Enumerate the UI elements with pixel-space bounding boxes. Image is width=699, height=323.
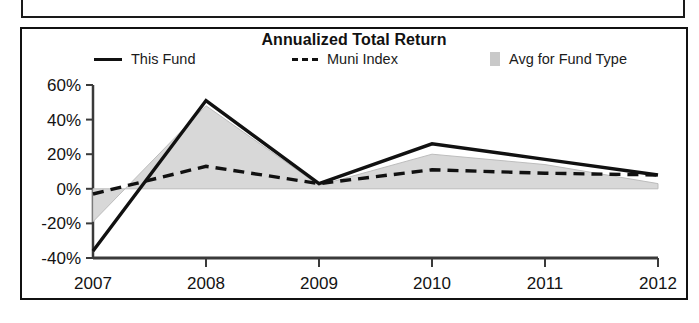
x-axis-tick-labels: 200720082009201020112012YTD [74,274,690,293]
x-axis-tick-label: 2012 [639,274,677,293]
clipped-panel-above [21,0,685,18]
y-axis-tick-label: 40% [47,111,81,130]
annualized-total-return-chart-panel: Annualized Total Return This Fund Muni I… [20,27,688,300]
y-axis-tick-label: -40% [41,249,81,268]
y-axis-tick-labels: 60%40%20%0%-20%-40% [41,76,81,268]
y-axis-tick-label: -20% [41,214,81,233]
x-axis-tick-label: 2008 [187,274,225,293]
y-axis-tick-label: 60% [47,76,81,95]
y-axis-tick-label: 20% [47,145,81,164]
x-axis-tick-label: 2010 [413,274,451,293]
x-axis-tick-label: 2011 [527,274,564,293]
chart-plot-area: 60%40%20%0%-20%-40% 20072008200920102011… [22,29,690,302]
x-axis-tick-label: 2007 [74,274,112,293]
x-axis-tick-label: 2009 [300,274,338,293]
y-axis-tick-label: 0% [56,180,81,199]
